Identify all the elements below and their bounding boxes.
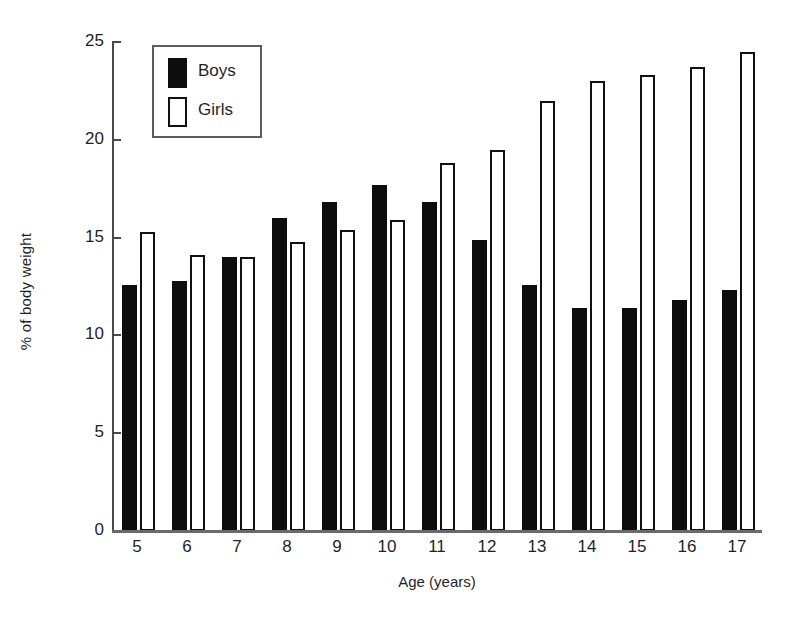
y-axis-tick-label: 25 xyxy=(58,31,104,51)
bar-boys xyxy=(622,308,637,531)
bar-group xyxy=(418,42,460,531)
bar-boys xyxy=(322,202,337,531)
bar-boys xyxy=(522,285,537,531)
bar-boys xyxy=(422,202,437,531)
bar-boys xyxy=(222,257,237,531)
legend-label-girls: Girls xyxy=(198,100,233,120)
x-axis-tick-label: 5 xyxy=(116,537,158,557)
bar-boys xyxy=(172,281,187,531)
y-axis-tick-label: 20 xyxy=(58,129,104,149)
x-axis-tick-label: 6 xyxy=(166,537,208,557)
x-axis-tick-label: 11 xyxy=(416,537,458,557)
x-axis-tick-label: 15 xyxy=(616,537,658,557)
bar-group xyxy=(718,42,760,531)
bar-group xyxy=(268,42,310,531)
bar-group xyxy=(518,42,560,531)
bar-girls xyxy=(390,220,405,531)
x-axis-title: Age (years) xyxy=(112,573,762,590)
y-axis-tick-label: 10 xyxy=(58,324,104,344)
x-axis-tick-label: 8 xyxy=(266,537,308,557)
bar-girls xyxy=(440,163,455,531)
legend-swatch-girls-icon xyxy=(168,97,187,127)
x-axis-tick-label: 13 xyxy=(516,537,558,557)
bar-girls xyxy=(540,101,555,531)
chart-legend: Boys Girls xyxy=(152,45,262,138)
x-axis-tick-label: 16 xyxy=(666,537,708,557)
bar-boys xyxy=(472,240,487,531)
legend-swatch-boys-icon xyxy=(168,58,187,88)
x-axis-tick-label: 7 xyxy=(216,537,258,557)
bar-girls xyxy=(490,150,505,531)
bar-girls xyxy=(740,52,755,531)
x-axis-tick-label: 12 xyxy=(466,537,508,557)
bar-boys xyxy=(372,185,387,531)
y-axis-tick-label: 15 xyxy=(58,227,104,247)
y-axis-tick-label: 5 xyxy=(58,422,104,442)
bar-group xyxy=(568,42,610,531)
bar-girls xyxy=(240,257,255,531)
bar-group xyxy=(618,42,660,531)
x-axis-line xyxy=(112,530,762,533)
bar-girls xyxy=(640,75,655,531)
bar-group xyxy=(468,42,510,531)
x-axis-tick-label: 9 xyxy=(316,537,358,557)
bar-girls xyxy=(690,67,705,531)
bar-group xyxy=(668,42,710,531)
bar-group xyxy=(368,42,410,531)
bar-boys xyxy=(272,218,287,531)
bar-girls xyxy=(340,230,355,531)
x-axis-tick-label: 17 xyxy=(716,537,758,557)
legend-label-boys: Boys xyxy=(198,61,236,81)
y-axis-title: % of body weight xyxy=(17,162,34,422)
x-axis-tick-label: 10 xyxy=(366,537,408,557)
bar-girls xyxy=(290,242,305,531)
x-axis-tick-label: 14 xyxy=(566,537,608,557)
bar-girls xyxy=(140,232,155,531)
bar-boys xyxy=(122,285,137,531)
bar-boys xyxy=(722,290,737,531)
bar-chart-figure: % of body weight 0510152025 567891011121… xyxy=(0,0,785,619)
bar-group xyxy=(318,42,360,531)
bar-boys xyxy=(572,308,587,531)
bar-boys xyxy=(672,300,687,531)
bar-girls xyxy=(190,255,205,531)
y-axis-tick-label: 0 xyxy=(58,520,104,540)
bar-girls xyxy=(590,81,605,531)
